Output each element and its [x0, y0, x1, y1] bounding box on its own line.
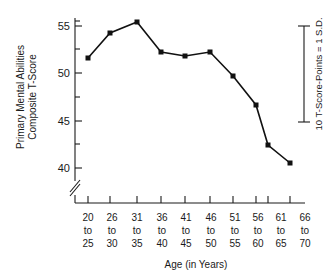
- x-tick-label-1-top: 26: [106, 212, 118, 223]
- data-point-7: [254, 103, 259, 108]
- y-axis-title-line1: Primary Mental Abilities: [15, 45, 26, 149]
- x-tick-label-8-top: 61: [275, 212, 287, 223]
- scale-annotation-label: 10 T-Score-Points = 1 S.D.: [313, 17, 324, 130]
- x-tick-label-group-0: 20 to 25: [82, 212, 94, 249]
- x-tick-label-group-3: 36 to 40: [156, 212, 168, 249]
- y-axis-title-line2: Composite T-Score: [27, 54, 38, 140]
- y-tick-label-50: 50: [58, 67, 70, 79]
- line-chart: Primary Mental Abilities Composite T-Sco…: [0, 0, 335, 275]
- x-tick-label-9-top: 66: [299, 212, 311, 223]
- x-tick-label-7-mid: to: [254, 225, 263, 236]
- x-tick-label-8-mid: to: [277, 225, 286, 236]
- x-tick-label-1-bot: 30: [106, 238, 118, 249]
- data-point-6: [231, 74, 236, 79]
- y-minor-ticks: [75, 21, 80, 144]
- y-axis-tick-labels: 55 50 45 40: [58, 20, 70, 174]
- x-tick-label-group-5: 46 to 50: [205, 212, 217, 249]
- x-tick-label-group-7: 56 to 60: [252, 212, 264, 249]
- x-tick-label-5-mid: to: [207, 225, 216, 236]
- data-point-8: [266, 143, 271, 148]
- x-tick-label-4-bot: 45: [180, 238, 192, 249]
- data-point-9: [288, 161, 293, 166]
- x-tick-label-3-bot: 40: [156, 238, 168, 249]
- data-point-5: [208, 50, 213, 55]
- x-tick-label-9-mid: to: [301, 225, 310, 236]
- x-tick-label-group-8: 61 to 65: [275, 212, 287, 249]
- x-tick-label-6-mid: to: [231, 225, 240, 236]
- x-tick-label-3-top: 36: [156, 212, 168, 223]
- x-tick-label-group-1: 26 to 30: [106, 212, 118, 249]
- chart-figure: Primary Mental Abilities Composite T-Sco…: [0, 0, 335, 275]
- x-tick-label-7-top: 56: [252, 212, 264, 223]
- data-point-1: [108, 31, 113, 36]
- x-tick-label-0-top: 20: [82, 212, 94, 223]
- x-tick-label-group-2: 31 to 35: [131, 212, 143, 249]
- data-point-2: [135, 20, 140, 25]
- x-axis-ticks: [88, 196, 290, 203]
- data-point-0: [86, 56, 91, 61]
- x-tick-label-2-bot: 35: [131, 238, 143, 249]
- x-tick-label-group-4: 41 to 45: [180, 212, 192, 249]
- y-tick-label-40: 40: [58, 162, 70, 174]
- data-point-3: [159, 50, 164, 55]
- data-markers: [86, 20, 293, 166]
- x-tick-label-0-mid: to: [84, 225, 93, 236]
- x-tick-label-6-bot: 55: [229, 238, 241, 249]
- y-tick-label-55: 55: [58, 20, 70, 32]
- x-tick-label-2-mid: to: [133, 225, 142, 236]
- x-tick-label-5-top: 46: [205, 212, 217, 223]
- y-tick-label-45: 45: [58, 115, 70, 127]
- x-tick-label-2-top: 31: [131, 212, 143, 223]
- data-series-line: [88, 22, 290, 163]
- y-axis-title: Primary Mental Abilities Composite T-Sco…: [15, 45, 38, 149]
- x-tick-label-3-mid: to: [158, 225, 167, 236]
- x-tick-label-0-bot: 25: [82, 238, 94, 249]
- data-point-4: [183, 54, 188, 59]
- x-tick-label-4-mid: to: [182, 225, 191, 236]
- x-tick-label-6-top: 51: [229, 212, 241, 223]
- x-tick-label-group-9: 66 to 70: [299, 212, 311, 249]
- x-tick-label-8-bot: 65: [275, 238, 287, 249]
- x-tick-label-7-bot: 60: [252, 238, 264, 249]
- x-tick-label-group-6: 51 to 55: [229, 212, 241, 249]
- x-tick-label-1-mid: to: [108, 225, 117, 236]
- x-tick-label-9-bot: 70: [299, 238, 311, 249]
- x-tick-label-5-bot: 50: [205, 238, 217, 249]
- x-axis-title: Age (in Years): [165, 259, 228, 270]
- x-tick-label-4-top: 41: [180, 212, 192, 223]
- x-axis-tick-labels: 20 to 25 26 to 30 31 to 35 36 to 40 41 t: [82, 212, 311, 249]
- scale-bracket: [298, 26, 310, 122]
- y-axis-break-icon: [70, 180, 80, 196]
